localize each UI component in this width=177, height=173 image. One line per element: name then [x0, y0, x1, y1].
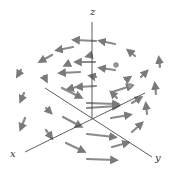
- vector-arrow: [66, 143, 83, 151]
- vector-arrow: [61, 72, 80, 73]
- vector-field-plot: z x y: [0, 0, 177, 173]
- vector-arrow: [129, 51, 135, 56]
- vector-arrow: [46, 130, 51, 137]
- vector-field-figure: z x y: [0, 0, 177, 173]
- vector-arrow: [58, 47, 73, 50]
- vector-arrow: [63, 117, 80, 126]
- vector-arrows: [18, 40, 160, 160]
- vector-arrow: [78, 86, 96, 87]
- vector-arrow: [21, 118, 25, 128]
- vector-arrow: [21, 93, 24, 100]
- vector-arrow: [66, 64, 68, 65]
- vector-arrow-endon: [128, 84, 133, 89]
- axes: z x y: [10, 6, 161, 163]
- vector-arrow: [88, 55, 92, 56]
- vector-arrow: [87, 159, 115, 160]
- vector-arrow-endon: [114, 63, 119, 68]
- vector-arrow: [146, 105, 147, 114]
- vector-arrow: [46, 108, 50, 112]
- vector-arrow: [141, 72, 146, 77]
- x-axis-label: x: [10, 148, 16, 159]
- vector-arrow: [18, 70, 21, 75]
- z-axis-label: z: [89, 6, 96, 17]
- vector-arrow: [159, 59, 160, 67]
- vector-arrow: [44, 76, 46, 80]
- vector-arrow: [111, 115, 129, 118]
- vector-arrow: [112, 143, 127, 147]
- vector-arrow: [75, 40, 96, 41]
- vector-arrow: [126, 78, 129, 80]
- vector-arrow: [87, 106, 117, 108]
- vector-arrow: [87, 103, 117, 104]
- y-axis-label: y: [154, 152, 161, 163]
- vector-arrow: [69, 87, 76, 89]
- vector-arrow: [112, 93, 117, 98]
- vector-arrow: [132, 124, 141, 132]
- y-axis-line: [45, 88, 152, 157]
- vector-arrow: [101, 68, 115, 70]
- vector-arrow: [41, 55, 52, 61]
- vector-arrow: [155, 85, 156, 94]
- vector-arrow: [87, 134, 114, 137]
- vector-arrow: [101, 41, 115, 44]
